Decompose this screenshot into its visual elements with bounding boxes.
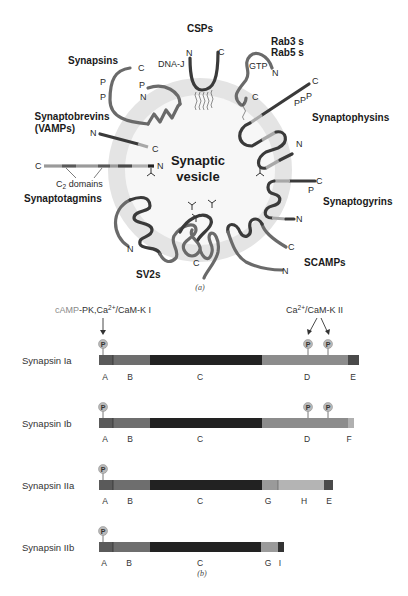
synaptotagmins-label: Synaptotagmins [24,193,102,204]
rab-label-2: Rab5 s [271,47,304,58]
svg-text:A: A [102,434,108,444]
kinase-left-label: cAMP-PK,Ca2+/CaM-K I [55,304,151,315]
svg-text:P: P [326,341,331,348]
svg-text:C: C [197,434,203,444]
svg-text:P: P [306,404,311,411]
kinase-right-label: Ca2+/CaM-K II [286,304,343,315]
synaptophysins-label: Synaptophysins [312,112,390,123]
csps-n-terminus: N [186,48,193,58]
panel-a-caption: (a) [195,283,205,292]
svg-text:E: E [350,372,356,382]
svg-text:G: G [265,558,272,568]
synaptogyrins-label: Synaptogyrins [323,196,393,207]
domain-A [99,542,113,552]
domain-E [348,355,359,365]
kinase-right-arrow-1 [310,318,317,331]
synaptogyrins-c-terminus: C [316,176,323,186]
svg-text:C: C [197,372,203,382]
domain-C [150,418,262,428]
synaptobrevins-c-terminus: C [152,144,159,154]
domain-F [348,418,354,428]
csps-dnaj-label: DNA-J [158,59,185,69]
kinase-right-arrow-2 [321,318,327,331]
svg-text:A: A [102,496,108,506]
panel-a: Synaptic vesicle Synapsins C N P P P CSP… [24,23,393,292]
domain-G [262,480,278,490]
domain-I [278,542,284,552]
csps-label: CSPs [187,23,214,34]
svg-text:B: B [127,434,133,444]
domain-D [262,418,348,428]
domain-A [99,480,113,490]
isoform-synapsin-iib: Synapsin IIb P A B C G I [22,527,284,569]
synaptophysins-p3: P [306,91,312,101]
panel-b: cAMP-PK,Ca2+/CaM-K I Ca2+/CaM-K II Synap… [22,304,359,578]
isoform-name: Synapsin IIa [22,480,75,491]
svg-text:E: E [326,496,332,506]
synaptotagmins-n-terminus: N [157,161,164,171]
synapsins-p1: P [100,77,106,87]
svg-text:P: P [101,528,106,535]
rab-label-1: Rab3 s [271,36,304,47]
scamps-n-terminus: N [282,266,289,276]
sv2s-n-terminus: N [127,244,134,254]
svg-text:G: G [265,496,272,506]
csps-c-terminus: C [218,47,225,57]
synaptogyrins-n-terminus: N [296,214,303,224]
synapsins-p3: P [139,80,145,90]
domain-A [99,418,113,428]
synaptogyrins-p1: P [308,185,314,195]
domain-D [262,355,348,365]
scamps-c-terminus: C [288,242,295,252]
synaptophysins-c-terminus: C [312,76,319,86]
domain-H [278,480,324,490]
svg-text:P: P [101,404,106,411]
svg-text:B: B [127,372,133,382]
synapsins-n-terminus: N [140,92,147,102]
domain-A [99,355,113,365]
svg-text:D: D [304,372,310,382]
isoform-name: Synapsin IIb [22,542,74,553]
svg-text:P: P [306,341,311,348]
synaptobrevins-label-2: (VAMPs) [35,123,75,134]
figure-canvas: Synaptic vesicle Synapsins C N P P P CSP… [0,0,408,596]
svg-text:F: F [346,434,351,444]
synaptobrevins-label-1: Synaptobrevins [34,111,109,122]
sv2s-c-terminus: C [193,258,200,268]
isoform-synapsin-ia: Synapsin Ia P P P A B C D E [22,340,359,383]
domain-B [113,418,150,428]
svg-text:P: P [101,466,106,473]
domain-G [261,542,278,552]
rab-c-terminus: C [252,92,259,102]
domain-C [150,480,262,490]
sv2s-label: SV2s [136,269,161,280]
domain-B [113,480,150,490]
svg-text:A: A [101,558,107,568]
synapsins-c-terminus: C [138,63,145,73]
panel-b-caption: (b) [197,569,207,578]
isoform-synapsin-iia: Synapsin IIa P A B C G H E [22,465,333,507]
domain-C [150,355,262,365]
vesicle-label-1: Synaptic [171,153,225,168]
isoform-name: Synapsin Ib [22,418,72,429]
svg-text:P: P [326,404,331,411]
svg-text:A: A [102,372,108,382]
svg-text:H: H [301,496,307,506]
svg-text:C: C [197,558,203,568]
svg-text:D: D [304,434,310,444]
domain-E [324,480,333,490]
domain-C [150,542,261,552]
isoform-synapsin-ib: Synapsin Ib P P P A B C D F [22,403,354,445]
svg-text:C: C [197,496,203,506]
synaptotagmins-c-terminus: C [35,161,42,171]
synapsins-p2: P [100,92,106,102]
svg-text:B: B [127,496,133,506]
scamps-label: SCAMPs [304,257,346,268]
rab-gtp-label: GTP [249,61,268,71]
synaptophysins-n-terminus: N [296,139,303,149]
synapsins-label: Synapsins [68,55,118,66]
svg-text:B: B [126,558,132,568]
domain-B [113,542,150,552]
c2-domains-label: C2 domains [56,179,103,190]
isoform-name: Synapsin Ia [22,355,72,366]
